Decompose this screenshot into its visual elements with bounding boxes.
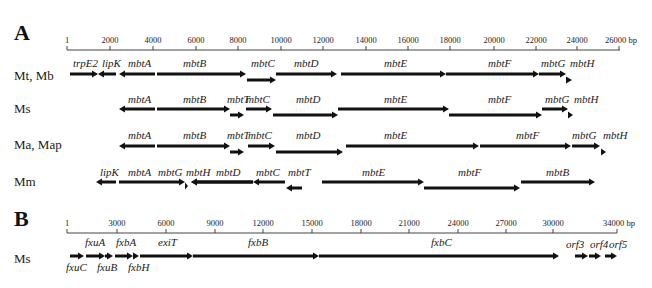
gene-label: mbtT xyxy=(288,166,312,178)
gene-label: mbtC xyxy=(248,129,273,141)
gene-label: mbtG xyxy=(158,166,183,178)
scale-axis: 1200040006000800010000120001400016000180… xyxy=(65,35,637,50)
gene-exiT: exiT xyxy=(140,236,193,260)
tick-label: 4000 xyxy=(145,35,162,45)
gene-mbtA: mbtA xyxy=(119,129,155,150)
genome-row: MsmbtAmbtBmbtTmbtCmbtDmbtEmbtFmbtGmbtH xyxy=(14,93,600,119)
gene-label: mbtD xyxy=(296,129,321,141)
tick-label: 16000 xyxy=(397,35,418,45)
genome-row: MsfxuCfxuAfxuBfxbAfxbHexiTfxbBfxbCorf3or… xyxy=(14,236,628,273)
arrowhead-right-icon xyxy=(269,143,275,150)
gene-label: mbtF xyxy=(516,129,540,141)
arrowhead-left-icon xyxy=(119,71,125,78)
arrowhead-left-icon xyxy=(119,143,125,150)
gene-fxbB: fxbB xyxy=(193,236,319,260)
gene-mbtG: mbtG xyxy=(539,57,566,78)
gene-label: mbtD xyxy=(294,57,319,69)
gene-mbtF: mbtF xyxy=(480,129,571,150)
gene-label: mbtB xyxy=(183,129,207,141)
gene-mbtD: mbtD xyxy=(273,93,338,119)
tick-label: 2000 xyxy=(102,35,119,45)
gene-label: mbtE xyxy=(384,93,408,105)
gene-mbtF: mbtF xyxy=(446,57,539,78)
arrowhead-right-icon xyxy=(238,112,244,119)
arrowhead-right-icon xyxy=(179,179,185,186)
gene-mbtB: mbtB xyxy=(157,93,230,113)
arrowhead-right-icon xyxy=(240,71,246,78)
panel-label: B xyxy=(14,206,29,231)
gene-lipK: lipK xyxy=(96,166,120,186)
tick-label: 18000 xyxy=(350,218,371,228)
gene-label: fxbA xyxy=(116,236,136,248)
gene-label: mbtD xyxy=(216,166,241,178)
arrowhead-right-icon xyxy=(536,112,542,119)
arrowhead-right-icon xyxy=(313,253,319,260)
gene-mbtE: mbtE xyxy=(338,93,449,113)
gene-mbtT: mbtT xyxy=(227,129,251,156)
gene-cluster-figure: A120004000600080001000012000140001600018… xyxy=(0,0,652,288)
gene-mbtH: mbtH xyxy=(566,57,596,84)
arrowhead-right-icon xyxy=(473,143,479,150)
gene-label: lipK xyxy=(100,166,120,178)
gene-label: mbtD xyxy=(296,93,321,105)
gene-label: mbtH xyxy=(603,129,629,141)
gene-mbtG: mbtG xyxy=(158,166,188,190)
arrowhead-right-icon xyxy=(133,253,139,260)
gene-label: mbtC xyxy=(256,166,281,178)
arrowhead-right-icon xyxy=(238,149,244,156)
arrowhead-right-icon xyxy=(224,143,230,150)
arrowhead-right-icon xyxy=(331,71,337,78)
tick-label: 14000 xyxy=(355,35,376,45)
organism-label: Ma, Map xyxy=(14,137,62,152)
arrowhead-right-icon xyxy=(127,253,133,260)
arrowhead-right-icon xyxy=(514,185,520,192)
gene-label: fxuA xyxy=(85,236,105,248)
scale-axis: 1300060009000120001500018000210002400027… xyxy=(65,218,635,233)
gene-label: mbtE xyxy=(362,166,386,178)
gene-label: mbtE xyxy=(384,129,408,141)
gene-label: mbtH xyxy=(186,166,212,178)
gene-trpE2: trpE2 xyxy=(70,57,99,78)
gene-label: mbtE xyxy=(384,57,408,69)
tick-label: 1 xyxy=(65,35,69,45)
arrowhead-right-icon xyxy=(566,77,572,84)
gene-mbtB: mbtB xyxy=(157,57,246,78)
gene-mbtT: mbtT xyxy=(286,166,312,192)
gene-mbtD: mbtD xyxy=(276,57,337,78)
gene-lipK: lipK xyxy=(98,57,122,78)
gene-orf3: orf3 xyxy=(566,238,588,260)
gene-fxuA: fxuA xyxy=(85,236,105,260)
arrowhead-right-icon xyxy=(582,253,588,260)
gene-mbtD: mbtD xyxy=(276,129,343,156)
arrowhead-right-icon xyxy=(594,143,600,150)
tick-label: 15000 xyxy=(301,218,322,228)
gene-label: fxuC xyxy=(66,261,87,273)
tick-label: 12000 xyxy=(312,35,333,45)
gene-label: mbtG xyxy=(541,57,566,69)
gene-mbtH: mbtH xyxy=(601,129,629,156)
gene-mbtG: mbtG xyxy=(542,93,570,113)
gene-label: fxbB xyxy=(248,236,268,248)
arrowhead-right-icon xyxy=(266,106,272,113)
gene-mbtC: mbtC xyxy=(253,166,285,186)
gene-mbtB: mbtB xyxy=(521,166,595,186)
arrowhead-right-icon xyxy=(270,77,276,84)
gene-label: mbtB xyxy=(183,57,207,69)
arrowhead-right-icon xyxy=(443,106,449,113)
tick-label: 12000 xyxy=(252,218,273,228)
gene-mbtF: mbtF xyxy=(449,93,542,119)
genome-row: Ma, MapmbtAmbtBmbtTmbtCmbtDmbtEmbtFmbtGm… xyxy=(14,129,629,156)
tick-label: 3000 xyxy=(109,218,126,228)
gene-label: mbtA xyxy=(128,129,152,141)
arrowhead-right-icon xyxy=(568,112,573,119)
arrowhead-left-icon xyxy=(98,71,104,78)
panel-label: A xyxy=(14,20,30,45)
gene-mbtE: mbtE xyxy=(346,129,479,150)
gene-label: mbtH xyxy=(574,93,600,105)
gene-mbtH: mbtH xyxy=(568,93,600,119)
gene-label: fxbH xyxy=(128,261,150,273)
gene-label: mbtB xyxy=(546,166,570,178)
gene-label: mbtG xyxy=(545,93,570,105)
tick-label: 6000 xyxy=(188,35,205,45)
gene-label: mbtH xyxy=(570,57,596,69)
